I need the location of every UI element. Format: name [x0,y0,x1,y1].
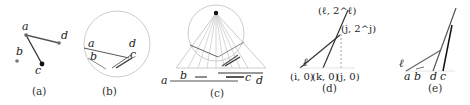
segment-ac [26,35,42,64]
label-mid: (j, 2^j) [341,23,376,34]
label-b: b [16,45,23,58]
label-c: c [35,64,41,77]
caption-d: (d) [322,82,337,94]
apex-point [214,11,218,15]
panel-a: a b c d (a) [15,20,68,97]
label-ell: ℓ [303,56,308,69]
label-ell: ℓ [399,57,404,70]
segment-d [112,55,131,68]
panel-e: ℓ a b d c (e) [399,8,456,94]
segment-ad [26,35,59,43]
figure-canvas: a b c d (a) a b c d (b) [0,0,470,105]
label-c: c [245,71,251,84]
label-top: (ℓ, 2^ℓ) [318,5,357,16]
panel-c: a b c d (c) [161,5,266,99]
label-b: b [180,69,187,82]
label-a: a [404,70,411,83]
label-d: d [256,74,263,87]
caption-e: (e) [428,82,442,94]
caption-c: (c) [210,87,224,99]
point-a [24,33,28,37]
panel-b: a b c d (b) [84,11,150,97]
rays [188,13,248,68]
segment-b [416,67,424,69]
label-k0: (k, 0) [312,71,339,82]
line-ell [406,50,441,71]
label-j0: (j, 0) [336,71,360,82]
panel-d: ℓ (ℓ, 2^ℓ) (j, 2^j) (i, 0) (k, 0) (j, 0)… [290,5,376,94]
caption-b: (b) [102,85,117,97]
label-d: d [129,37,136,50]
label-a: a [22,20,29,33]
label-b: b [414,70,421,83]
chord-3 [222,55,238,66]
label-a: a [88,37,95,50]
caption-a: (a) [32,85,46,97]
label-b: b [90,50,97,63]
label-d: d [61,29,68,42]
point-b [15,59,19,63]
label-i0: (i, 0) [290,71,314,82]
line-k [323,10,348,68]
label-a: a [161,74,168,87]
